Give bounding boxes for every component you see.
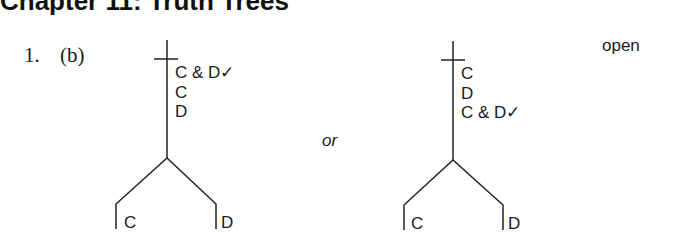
tree-left-branch-left: C: [124, 213, 136, 232]
tree-left-lines: [0, 0, 684, 237]
tree-right-branch-right: D: [508, 214, 520, 233]
tree-right-line-2: D: [461, 84, 473, 103]
or-separator: or: [322, 131, 337, 150]
tree-left-line-2: C: [175, 83, 187, 102]
tree-left-line-3: D: [175, 102, 187, 121]
status-open: open: [602, 36, 640, 55]
tree-right-branch-left: C: [411, 214, 423, 233]
tree-right-line-1: C: [461, 64, 473, 83]
tree-left-branch-right: D: [221, 213, 233, 232]
tree-right-line-3: C & D✓: [461, 103, 520, 122]
tree-left-line-1: C & D✓: [175, 63, 234, 82]
